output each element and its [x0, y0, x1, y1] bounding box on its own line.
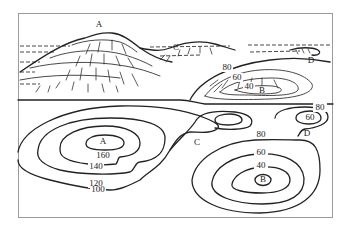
- topographic-diagram: A C B D 80 60 40 160 140 120: [0, 0, 350, 230]
- hill-contour-label-160: 160: [96, 150, 110, 160]
- contour-map: 160 140 120 100 A C B D 80 60 40 80 60: [18, 102, 328, 213]
- landscape-contour-60: 60: [233, 72, 243, 82]
- hill-contour: [72, 40, 137, 52]
- cliff-contour-label-80: 80: [316, 102, 326, 112]
- hill-contour: [30, 62, 160, 76]
- horizon-line: [20, 51, 300, 56]
- landscape-label-d: D: [308, 55, 315, 65]
- depression-contour-label-60: 60: [257, 147, 267, 157]
- map-point-a: A: [100, 136, 107, 146]
- hill-contour: [20, 75, 120, 80]
- saddle-knoll-contour: [215, 114, 242, 125]
- hill-contour: [50, 51, 152, 66]
- map-point-b: B: [260, 174, 266, 184]
- landscape-contour-80: 80: [223, 62, 233, 72]
- cliff-contour-label-60: 60: [306, 112, 316, 122]
- depression-contour-label-80: 80: [257, 129, 267, 139]
- landscape-label-c: C: [173, 42, 179, 52]
- saddle-contour: [170, 111, 252, 150]
- map-point-c: C: [194, 137, 200, 147]
- hill-contour-label-100: 100: [91, 184, 105, 194]
- landscape-label-b: B: [259, 85, 265, 95]
- hill-contour-label-140: 140: [89, 161, 103, 171]
- map-point-d: D: [304, 128, 311, 138]
- landscape-label-a: A: [96, 19, 103, 29]
- ground-line: [18, 100, 333, 104]
- landscape-contour-40: 40: [245, 81, 255, 91]
- hill-a-outline: [20, 33, 172, 72]
- cliff-hatching: [296, 49, 310, 54]
- depression-contour-label-40: 40: [257, 160, 267, 170]
- landscape-sketch: A C B D 80 60 40: [18, 19, 333, 104]
